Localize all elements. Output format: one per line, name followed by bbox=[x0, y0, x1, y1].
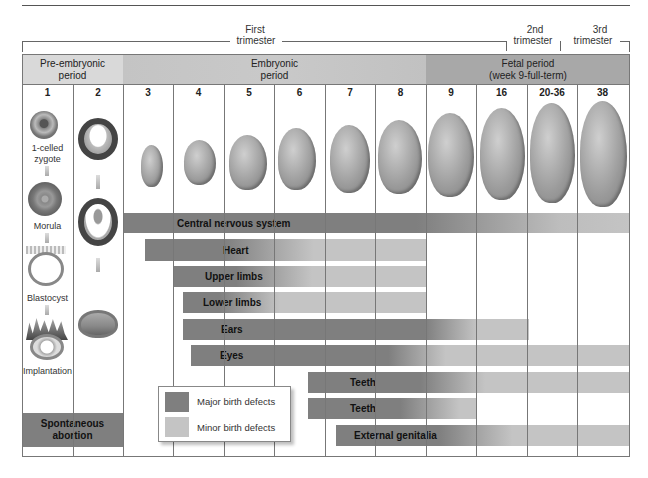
grid-line bbox=[426, 84, 427, 456]
period-line2: period bbox=[40, 70, 105, 82]
period-line1: Fetal period bbox=[489, 58, 567, 70]
first-trimester-bracket-left bbox=[22, 41, 231, 52]
grid-line bbox=[577, 84, 578, 456]
first-trimester-bracket-right bbox=[282, 41, 506, 52]
zygote-label: 1-celled zygote bbox=[22, 143, 73, 165]
bar-teeth-2: Teeth bbox=[308, 398, 476, 419]
legend-major-swatch bbox=[165, 392, 189, 412]
implantation-label: Implantation bbox=[22, 366, 73, 377]
table-bottom-line bbox=[22, 456, 630, 457]
period-line1: Embryonic bbox=[251, 58, 298, 70]
implantation-icon bbox=[30, 334, 64, 360]
week-header: 38 bbox=[577, 84, 628, 102]
arrow-down-icon bbox=[45, 166, 49, 176]
week-header: 20-36 bbox=[527, 84, 577, 102]
arrow-down-icon bbox=[45, 233, 49, 243]
header-divider bbox=[22, 84, 630, 85]
week-header: 1 bbox=[22, 84, 73, 102]
embryo-week9-icon bbox=[428, 113, 474, 197]
embryo-week5-icon bbox=[229, 135, 267, 190]
grid-line bbox=[375, 84, 376, 456]
week2-bilaminar-disc-icon bbox=[78, 310, 118, 338]
legend-minor-label: Minor birth defects bbox=[197, 422, 275, 433]
zygote-label-line1: 1-celled bbox=[22, 143, 73, 154]
grid-line bbox=[629, 54, 630, 456]
morula-label: Morula bbox=[22, 221, 73, 232]
week-header: 2 bbox=[73, 84, 123, 102]
legend: Major birth defects Minor birth defects bbox=[158, 386, 291, 442]
embryo-week7-icon bbox=[330, 125, 370, 193]
arrow-down-icon bbox=[45, 305, 49, 315]
bar-label: Upper limbs bbox=[205, 271, 263, 282]
bar-label: Teeth bbox=[350, 403, 376, 414]
week-header: 9 bbox=[426, 84, 476, 102]
top-rule bbox=[22, 5, 630, 6]
embryo-week3-icon bbox=[141, 145, 163, 187]
week-header: 3 bbox=[123, 84, 173, 102]
bar-lower-limbs: Lower limbs bbox=[183, 292, 426, 313]
week-header: 7 bbox=[325, 84, 375, 102]
week-header: 6 bbox=[274, 84, 325, 102]
embryo-week8-icon bbox=[378, 120, 422, 194]
pre-embryonic-period-band: Pre-embryonicperiod bbox=[22, 54, 123, 85]
blastocyst-label: Blastocyst bbox=[22, 293, 73, 304]
grid-line bbox=[476, 84, 477, 456]
week-header: 8 bbox=[375, 84, 426, 102]
period-line2: period bbox=[251, 70, 298, 82]
zygote-label-line2: zygote bbox=[22, 154, 73, 165]
bar-label: Teeth bbox=[350, 377, 376, 388]
second-trimester-label-line2: trimester bbox=[507, 35, 559, 46]
week2-amniotic-cavity-icon bbox=[78, 198, 118, 246]
embryonic-period-band: Embryonicperiod bbox=[123, 54, 426, 85]
bar-external-genitalia: External genitalia bbox=[336, 425, 630, 446]
morula-icon bbox=[28, 182, 62, 216]
grid-line bbox=[123, 84, 124, 456]
fetal-period-band: Fetal period(week 9-full-term) bbox=[426, 54, 630, 85]
zygote-icon bbox=[30, 111, 58, 139]
first-trimester-label: First bbox=[210, 24, 300, 35]
bar-ears: Ears bbox=[183, 319, 529, 340]
period-line1: Pre-embryonic bbox=[40, 58, 105, 70]
first-trimester-label-line2: trimester bbox=[230, 35, 282, 46]
blastocyst-icon bbox=[28, 252, 64, 286]
week2-embryo-disc-icon bbox=[78, 118, 118, 160]
grid-line bbox=[22, 54, 23, 456]
arrow-down-icon bbox=[96, 175, 100, 189]
bar-upper-limbs: Upper limbs bbox=[173, 266, 426, 287]
bar-label: Heart bbox=[223, 245, 249, 256]
legend-minor-swatch bbox=[165, 417, 189, 437]
bar-eyes: Eyes bbox=[191, 345, 630, 366]
embryo-week4-icon bbox=[184, 140, 216, 185]
week-header: 4 bbox=[173, 84, 224, 102]
embryo-week6-icon bbox=[278, 128, 316, 190]
third-trimester-label-line2: trimester bbox=[565, 35, 621, 46]
bar-label: Lower limbs bbox=[203, 297, 261, 308]
grid-line bbox=[325, 84, 326, 456]
embryo-week20-36-icon bbox=[530, 103, 575, 203]
week-header: 5 bbox=[224, 84, 274, 102]
trimester-line1: First bbox=[210, 24, 300, 35]
bar-teeth: Teeth bbox=[308, 372, 630, 393]
trimester-divider-2 bbox=[560, 41, 561, 51]
bar-heart: Heart bbox=[145, 239, 426, 261]
bar-central-nervous-system: Central nervous system bbox=[123, 213, 630, 233]
third-trimester-bracket bbox=[620, 41, 630, 52]
embryo-week16-icon bbox=[480, 108, 525, 200]
bar-label: External genitalia bbox=[354, 430, 437, 441]
legend-major-label: Major birth defects bbox=[197, 396, 275, 407]
third-trimester-label: 3rd bbox=[580, 24, 620, 35]
embryo-week38-icon bbox=[580, 101, 627, 207]
grid-line bbox=[73, 84, 74, 456]
second-trimester-label: 2nd bbox=[510, 24, 560, 35]
arrow-down-icon bbox=[96, 258, 100, 272]
week-header: 16 bbox=[476, 84, 527, 102]
period-line2: (week 9-full-term) bbox=[489, 70, 567, 82]
grid-line bbox=[527, 84, 528, 456]
